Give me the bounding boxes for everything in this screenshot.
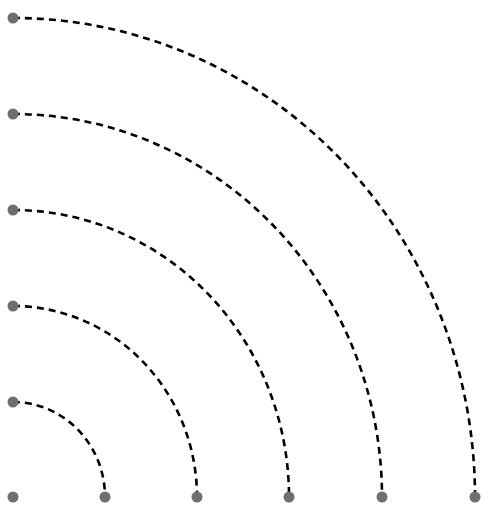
arc-start-dot-1 — [8, 397, 19, 408]
dashed-arc-1 — [13, 402, 105, 497]
arc-start-dot-4 — [8, 109, 19, 120]
arc-start-dot-5 — [8, 13, 19, 24]
arcs-group — [13, 18, 475, 497]
dashed-arc-2 — [13, 306, 197, 497]
concentric-arcs-diagram — [0, 0, 490, 513]
arc-end-dot-3 — [284, 492, 295, 503]
dashed-arc-4 — [13, 114, 382, 497]
arc-end-dot-4 — [377, 492, 388, 503]
dashed-arc-5 — [13, 18, 475, 497]
arc-end-dot-5 — [470, 492, 481, 503]
dashed-arc-3 — [13, 210, 289, 497]
arc-start-dot-2 — [8, 301, 19, 312]
arc-start-dot-3 — [8, 205, 19, 216]
arc-end-dot-1 — [100, 492, 111, 503]
arc-end-dot-2 — [192, 492, 203, 503]
origin-dot — [8, 492, 19, 503]
